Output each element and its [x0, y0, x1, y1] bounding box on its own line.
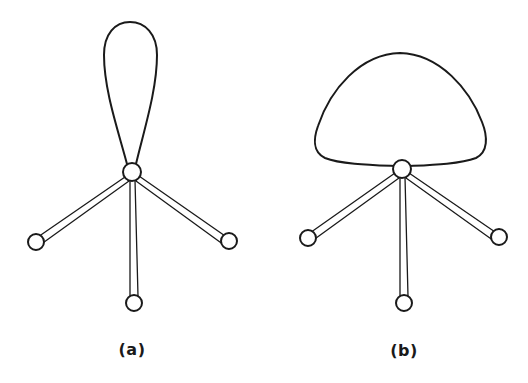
lone-pair-lobe-broad	[315, 53, 486, 166]
ligand-atom-right	[491, 229, 507, 245]
ligand-atom-left	[28, 234, 44, 250]
bond-bottom	[400, 177, 408, 296]
ligand-atom-bottom	[396, 295, 412, 311]
diagram-canvas	[0, 0, 528, 383]
bond-left	[307, 173, 399, 241]
bond-bottom	[130, 180, 138, 296]
bond-left	[35, 177, 129, 245]
panel-b-label: (b)	[390, 341, 418, 360]
bond-right	[136, 176, 228, 245]
panel-a-label: (a)	[119, 340, 146, 359]
panel-b	[300, 53, 507, 311]
ligand-atom-bottom	[126, 295, 142, 311]
central-atom	[123, 163, 141, 181]
central-atom	[393, 160, 411, 178]
ligand-atom-left	[300, 230, 316, 246]
panel-a	[28, 22, 237, 311]
ligand-atom-right	[221, 233, 237, 249]
lone-pair-lobe-narrow	[104, 22, 157, 164]
bond-right	[406, 173, 498, 241]
